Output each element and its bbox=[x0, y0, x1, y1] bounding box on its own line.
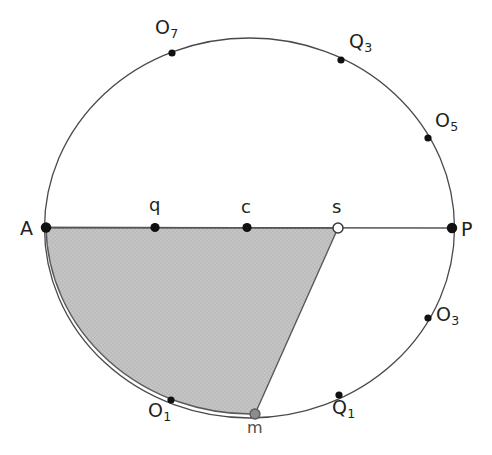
point-label-text-s: s bbox=[332, 196, 341, 217]
point-label-A: A bbox=[20, 219, 33, 238]
point-label-O7: O7 bbox=[155, 18, 178, 37]
point-label-text-A: A bbox=[20, 217, 33, 239]
point-label-subscript-Q3: 3 bbox=[364, 40, 372, 55]
point-marker-A[interactable] bbox=[41, 222, 51, 232]
point-label-text-O5: O bbox=[435, 109, 450, 131]
point-label-m: m bbox=[247, 420, 263, 436]
point-label-c: c bbox=[241, 198, 251, 216]
point-label-P: P bbox=[461, 220, 472, 239]
shaded-segment-region bbox=[46, 228, 338, 415]
point-marker-O3[interactable] bbox=[424, 314, 431, 321]
point-label-subscript-Q1: 1 bbox=[347, 406, 355, 421]
point-marker-s[interactable] bbox=[333, 223, 343, 233]
point-label-text-c: c bbox=[241, 196, 251, 217]
point-label-O1: O1 bbox=[148, 401, 171, 420]
point-label-subscript-O5: 5 bbox=[450, 119, 458, 134]
point-label-Q1: Q1 bbox=[332, 398, 355, 417]
point-marker-P[interactable] bbox=[447, 223, 457, 233]
point-marker-O5[interactable] bbox=[424, 134, 431, 141]
point-label-s: s bbox=[332, 198, 341, 216]
point-label-O3: O3 bbox=[436, 305, 459, 324]
point-label-text-O1: O bbox=[148, 399, 163, 421]
point-marker-q[interactable] bbox=[150, 223, 159, 232]
point-label-Q3: Q3 bbox=[349, 32, 372, 51]
point-marker-c[interactable] bbox=[242, 223, 251, 232]
point-label-text-q: q bbox=[149, 194, 160, 215]
point-label-text-O7: O bbox=[155, 16, 170, 38]
point-label-subscript-O3: 3 bbox=[451, 313, 459, 328]
point-label-text-Q3: Q bbox=[349, 30, 364, 52]
geometry-canvas bbox=[0, 0, 492, 455]
geometry-figure: APqcsmO7Q3O5O3Q1O1 bbox=[0, 0, 492, 455]
point-label-q: q bbox=[149, 196, 160, 214]
point-label-text-P: P bbox=[461, 218, 472, 240]
point-label-subscript-O1: 1 bbox=[163, 409, 171, 424]
point-label-O5: O5 bbox=[435, 111, 458, 130]
point-label-text-m: m bbox=[247, 418, 263, 437]
point-label-text-Q1: Q bbox=[332, 396, 347, 418]
point-marker-Q3[interactable] bbox=[337, 56, 344, 63]
point-label-text-O3: O bbox=[436, 303, 451, 325]
point-label-subscript-O7: 7 bbox=[170, 26, 178, 41]
point-marker-O7[interactable] bbox=[168, 49, 175, 56]
